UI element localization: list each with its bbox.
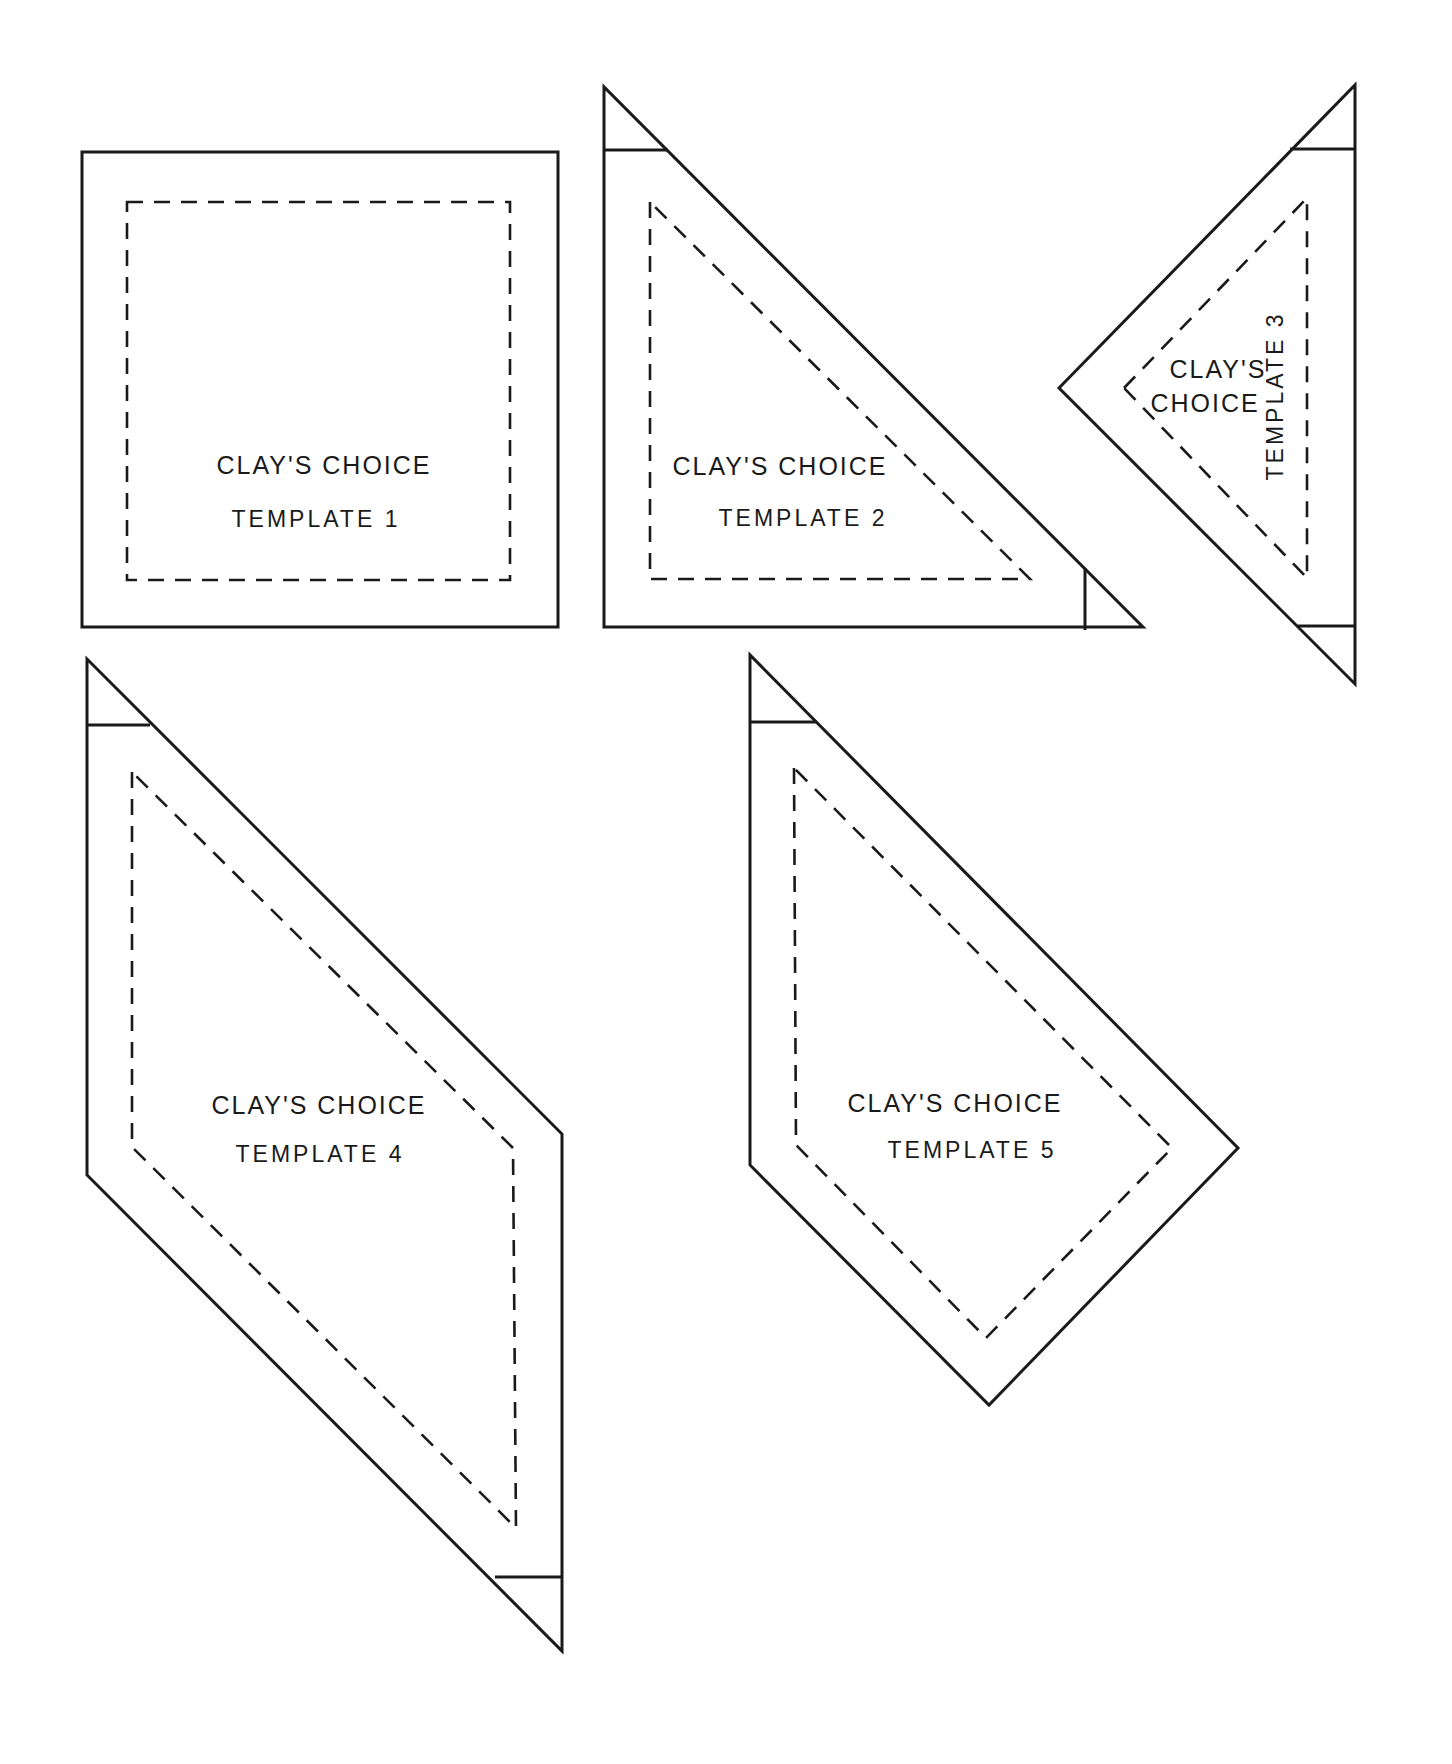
template-5-seam-line [794,768,1172,1338]
template-3: CLAY'S CHOICE TEMPLATE 3 [1059,85,1355,684]
template-1: CLAY'S CHOICE TEMPLATE 1 [82,152,558,627]
template-5-cut-line [750,655,1238,1405]
template-2-title: CLAY'S CHOICE [672,452,887,480]
quilt-template-sheet: CLAY'S CHOICE TEMPLATE 1 CLAY'S CHOICE T… [0,0,1452,1764]
template-1-title: CLAY'S CHOICE [216,451,431,479]
template-3-title-line1: CLAY'S [1170,355,1267,383]
template-4: CLAY'S CHOICE TEMPLATE 4 [87,659,562,1651]
template-1-label: TEMPLATE 1 [232,506,401,532]
template-3-title-line2: CHOICE [1150,389,1259,417]
template-2: CLAY'S CHOICE TEMPLATE 2 [604,87,1143,630]
template-3-cut-line [1059,85,1355,684]
template-5-title: CLAY'S CHOICE [847,1089,1062,1117]
template-1-cut-line [82,152,558,627]
template-2-cut-line [604,87,1143,627]
template-4-title: CLAY'S CHOICE [211,1091,426,1119]
template-5-label: TEMPLATE 5 [888,1137,1057,1163]
template-4-label: TEMPLATE 4 [236,1141,405,1167]
template-5: CLAY'S CHOICE TEMPLATE 5 [750,655,1238,1405]
template-2-label: TEMPLATE 2 [719,505,888,531]
template-3-label: TEMPLATE 3 [1262,312,1288,481]
